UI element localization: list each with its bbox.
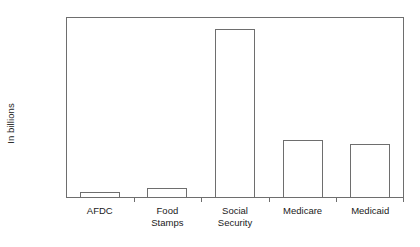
bar (147, 188, 187, 198)
y-axis-title: In billions (0, 0, 20, 247)
bar-chart: In billions 050100150200250300350400450 … (0, 0, 420, 247)
x-category-label-line: AFDC (66, 205, 134, 217)
bar (350, 144, 390, 198)
x-category-label-line: Food (134, 205, 202, 217)
x-category-label-line: Social (201, 205, 269, 217)
x-category-label: SocialSecurity (201, 205, 269, 228)
x-category-label: Medicaid (336, 205, 404, 217)
x-tick-mark (336, 198, 337, 202)
x-category-label-line: Security (201, 217, 269, 229)
bar (215, 29, 255, 198)
bar (80, 192, 120, 198)
x-tick-mark (269, 198, 270, 202)
x-tick-mark (201, 198, 202, 202)
x-category-label-line: Medicare (269, 205, 337, 217)
x-tick-mark (403, 198, 404, 202)
x-category-label: FoodStamps (134, 205, 202, 228)
bar (283, 140, 323, 198)
x-category-label-line: Medicaid (336, 205, 404, 217)
x-tick-mark (134, 198, 135, 202)
x-category-label: AFDC (66, 205, 134, 217)
x-category-label: Medicare (269, 205, 337, 217)
x-category-label-line: Stamps (134, 217, 202, 229)
